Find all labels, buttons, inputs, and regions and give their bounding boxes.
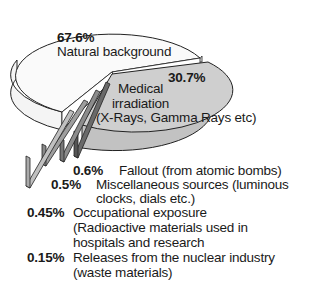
label-occupational-line3: hospitals and research — [73, 235, 204, 250]
label-nuclear-line1: Releases from the nuclear industry — [73, 250, 275, 265]
label-natural-desc: Natural background — [57, 44, 171, 59]
label-occupational-line2: (Radioactive materials used in — [73, 220, 248, 235]
label-misc-line2: clocks, dials etc.) — [96, 191, 195, 206]
label-medical-line3: (X-Rays, Gamma Rays etc) — [96, 110, 256, 125]
label-natural-pct: 67.6% — [57, 30, 94, 45]
label-misc-line1: Miscellaneous sources (luminous — [96, 177, 289, 192]
label-medical-line1: Medical — [118, 81, 163, 96]
label-nuclear-line2: (waste materials) — [73, 265, 172, 280]
label-fallout-pct: 0.6% — [73, 163, 103, 178]
label-nuclear-pct: 0.15% — [27, 250, 64, 265]
label-misc-pct: 0.5% — [51, 177, 81, 192]
label-medical-line2: irradiation — [112, 96, 169, 111]
label-occupational-line1: Occupational exposure — [73, 205, 207, 220]
label-medical-pct: 30.7% — [168, 70, 205, 85]
label-fallout-desc: Fallout (from atomic bombs) — [119, 163, 282, 178]
label-occupational-pct: 0.45% — [27, 205, 64, 220]
